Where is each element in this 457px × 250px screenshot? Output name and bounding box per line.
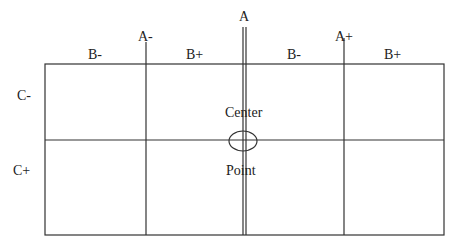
- label-b-plus-left: B+: [186, 48, 203, 62]
- label-c-minus: C-: [17, 89, 31, 103]
- label-point: Point: [226, 164, 256, 178]
- label-b-minus-right: B-: [287, 48, 301, 62]
- label-b-plus-right: B+: [384, 48, 401, 62]
- label-b-minus-left: B-: [88, 48, 102, 62]
- outer-frame: [45, 64, 444, 235]
- label-a-minus: A-: [138, 30, 153, 44]
- label-a: A: [239, 10, 249, 24]
- grid-diagram: [0, 0, 457, 250]
- label-center: Center: [225, 106, 262, 120]
- label-c-plus: C+: [13, 164, 30, 178]
- label-a-plus: A+: [335, 30, 353, 44]
